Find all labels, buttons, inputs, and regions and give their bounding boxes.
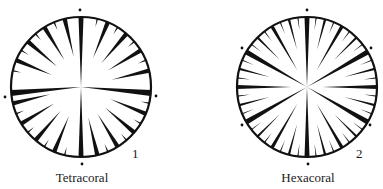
orientation-dot [241, 124, 244, 127]
orientation-dot [369, 124, 372, 127]
orientation-dot [155, 95, 158, 98]
orientation-dot [4, 96, 7, 99]
hexacoral-caption: Hexacoral [272, 170, 344, 186]
tetracoral-figure-number: 1 [132, 146, 139, 162]
hexacoral-figure-number: 2 [356, 146, 363, 162]
orientation-dot [79, 9, 82, 12]
hexacoral-figure [237, 9, 377, 166]
coral-septa-diagram [0, 0, 383, 189]
orientation-dot [307, 163, 310, 166]
orientation-dot [306, 9, 309, 12]
tetracoral-figure [4, 9, 158, 166]
tetracoral-caption: Tetracoral [46, 170, 118, 186]
orientation-dot [370, 47, 373, 50]
orientation-dot [81, 163, 84, 166]
orientation-dot [241, 47, 244, 50]
